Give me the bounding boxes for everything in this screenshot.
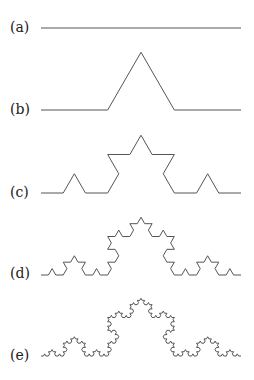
koch-figure [0,0,254,380]
koch-curve-e [41,298,241,356]
koch-curve-c [41,135,241,193]
koch-curve-b [41,52,241,110]
koch-curve-d [41,217,241,275]
